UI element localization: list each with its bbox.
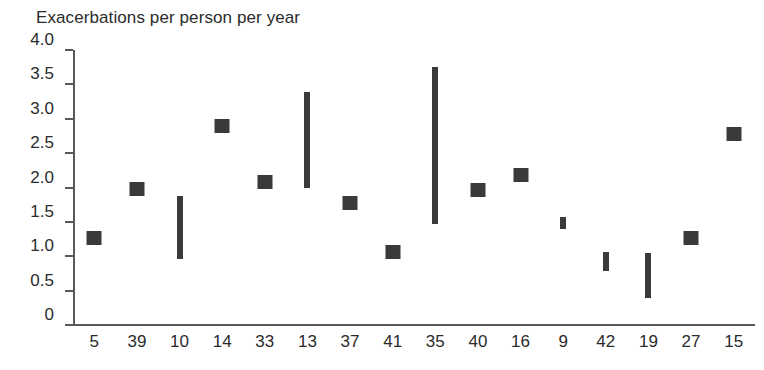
x-axis-tick-label: 40: [468, 332, 487, 352]
x-axis-tick-label: 16: [511, 332, 530, 352]
y-axis-tick-label: 3.0: [8, 99, 54, 119]
y-axis-tick: [65, 290, 73, 292]
x-axis-tick-label: 19: [639, 332, 658, 352]
y-axis-tick: [65, 187, 73, 189]
data-point-range-bar: [560, 217, 566, 229]
data-point-range-bar: [645, 253, 651, 298]
y-axis-tick-label: 1.0: [8, 236, 54, 256]
x-axis-spine: [73, 324, 755, 326]
y-axis-tick-label: 3.5: [8, 64, 54, 84]
data-point-square: [470, 183, 485, 197]
data-point-square: [257, 175, 272, 189]
x-axis-tick-label: 33: [255, 332, 274, 352]
data-point-square: [385, 245, 400, 259]
x-axis-tick-label: 15: [724, 332, 743, 352]
y-axis-tick: [65, 49, 73, 51]
data-point-range-bar: [304, 92, 310, 188]
y-axis-tick: [65, 152, 73, 154]
x-axis-tick-label: 39: [127, 332, 146, 352]
data-point-square: [726, 127, 741, 141]
y-axis-tick-label: 1.5: [8, 202, 54, 222]
chart-page: Exacerbations per person per year 4.03.5…: [0, 0, 764, 370]
data-point-range-bar: [432, 67, 438, 224]
y-axis-spine: [73, 50, 75, 326]
plot-area: 4.03.53.02.52.01.51.00.50 53910143313374…: [0, 0, 764, 370]
x-axis-tick-label: 5: [90, 332, 99, 352]
x-axis-tick-label: 42: [596, 332, 615, 352]
y-axis-tick-label: 2.5: [8, 133, 54, 153]
data-point-square: [513, 168, 528, 182]
y-axis-tick-label: 4.0: [8, 30, 54, 50]
data-point-range-bar: [177, 196, 183, 259]
data-point-square: [129, 182, 144, 196]
y-axis-tick: [65, 324, 73, 326]
y-axis-tick: [65, 221, 73, 223]
y-axis-tick-label: 0.5: [8, 271, 54, 291]
x-axis-tick-label: 41: [383, 332, 402, 352]
data-point-square: [684, 231, 699, 245]
x-axis-tick-label: 10: [170, 332, 189, 352]
y-axis-tick: [65, 118, 73, 120]
x-axis-tick-label: 14: [213, 332, 232, 352]
x-axis-tick-label: 9: [558, 332, 567, 352]
data-point-range-bar: [603, 252, 609, 271]
x-axis-tick-label: 35: [426, 332, 445, 352]
y-axis-tick-label: 0: [8, 305, 54, 325]
data-point-square: [215, 119, 230, 133]
y-axis-tick-label: 2.0: [8, 168, 54, 188]
y-axis-tick: [65, 83, 73, 85]
y-axis-tick: [65, 255, 73, 257]
data-point-square: [343, 196, 358, 210]
data-point-square: [87, 231, 102, 245]
x-axis-tick-label: 37: [341, 332, 360, 352]
x-axis-tick-label: 27: [682, 332, 701, 352]
x-axis-tick-label: 13: [298, 332, 317, 352]
